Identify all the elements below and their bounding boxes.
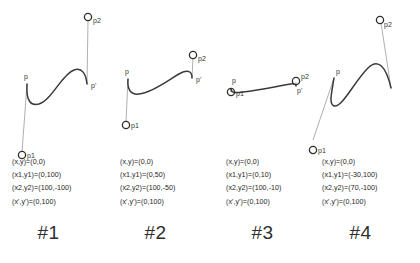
panel-3-label: #3 — [210, 222, 315, 244]
diagram-panel-1: p p' p1 p2 (x,y)=(0,0) (x1,y1)=(0,100) (… — [0, 0, 105, 263]
label-p: p — [125, 68, 129, 76]
equation-line: (x2,y2)=(100,-100) — [12, 182, 110, 195]
panel-2-equations: (x,y)=(0,0) (x1,y1)=(0,50) (x2,y2)=(100,… — [120, 156, 218, 209]
curve-diagram-figure: p p' p1 p2 (x,y)=(0,0) (x1,y1)=(0,100) (… — [0, 0, 420, 263]
equation-line: (x1,y1)=(0,100) — [12, 169, 110, 182]
label-p-prime: p' — [91, 82, 96, 90]
label-p: p — [336, 68, 340, 76]
equation-line: (x2,y2)=(70,-100) — [322, 182, 420, 195]
equation-line: (x',y')=(0,100) — [120, 196, 218, 209]
diagram-panel-3: p p' p1 p2 (x,y)=(0,0) (x1,y1)=(0,10) (x… — [213, 0, 318, 263]
panel-1-label: #1 — [0, 222, 101, 244]
label-p1: p1 — [236, 90, 244, 98]
panel-4-label: #4 — [308, 222, 413, 244]
equation-line: (x',y')=(0,100) — [322, 196, 420, 209]
bezier-curve — [27, 69, 87, 104]
panel-3-graphic: p p' p1 p2 — [213, 0, 318, 160]
panel-1-equations: (x,y)=(0,0) (x1,y1)=(0,100) (x2,y2)=(100… — [12, 156, 110, 209]
tangent-line-p2 — [381, 23, 391, 88]
label-p2: p2 — [384, 21, 392, 29]
equation-line: (x1,y1)=(-30,100) — [322, 169, 420, 182]
panel-4-graphic: p p1 p2 — [310, 0, 415, 160]
panel-2-label: #2 — [103, 222, 208, 244]
label-p: p — [24, 73, 28, 81]
label-p-prime: p' — [196, 76, 201, 84]
panel-4-equations: (x,y)=(0,0) (x1,y1)=(-30,100) (x2,y2)=(7… — [322, 156, 420, 209]
bezier-curve — [331, 64, 391, 106]
control-point-p2[interactable] — [376, 16, 383, 23]
bezier-curve — [128, 71, 192, 94]
label-p2: p2 — [198, 55, 206, 63]
panel-2-graphic: p p' p1 p2 — [107, 0, 212, 160]
diagram-panel-2: p p' p1 p2 (x,y)=(0,0) (x1,y1)=(0,50) (x… — [107, 0, 212, 263]
label-p2: p2 — [93, 17, 101, 25]
control-point-p2[interactable] — [189, 51, 196, 58]
label-p2: p2 — [301, 73, 309, 81]
equation-line: (x',y')=(0,100) — [12, 196, 110, 209]
equation-line: (x1,y1)=(0,50) — [120, 169, 218, 182]
label-p: p — [232, 77, 236, 85]
label-p1: p1 — [131, 122, 139, 130]
panel-1-graphic: p p' p1 p2 — [0, 0, 105, 160]
tangent-line-p1 — [313, 78, 334, 140]
tangent-line-p2 — [87, 20, 88, 84]
equation-line: (x,y)=(0,0) — [12, 156, 110, 169]
label-p-prime: p' — [297, 87, 302, 95]
equation-line: (x2,y2)=(100,-50) — [120, 182, 218, 195]
diagram-panel-4: p p1 p2 (x,y)=(0,0) (x1,y1)=(-30,100) (x… — [310, 0, 415, 263]
tangent-line-p1 — [22, 84, 27, 152]
control-point-p1[interactable] — [122, 121, 129, 128]
label-p1: p1 — [318, 147, 326, 155]
control-point-p1[interactable] — [309, 146, 316, 153]
equation-line: (x,y)=(0,0) — [120, 156, 218, 169]
equation-line: (x,y)=(0,0) — [322, 156, 420, 169]
control-point-p2[interactable] — [84, 13, 91, 20]
